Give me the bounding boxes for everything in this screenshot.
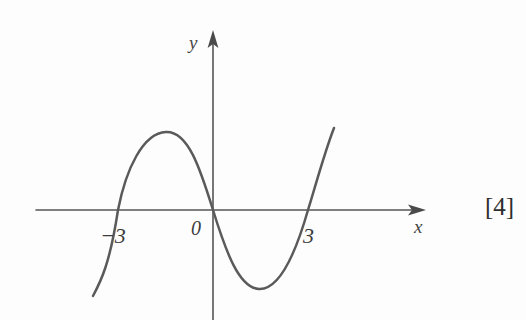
marks-allocation-badge: [4]	[485, 194, 514, 219]
x-axis-label: x	[413, 216, 423, 237]
cubic-graph-figure: y x 0 −3 3	[0, 0, 526, 320]
origin-label: 0	[191, 217, 201, 239]
x-tick-label-3: 3	[302, 223, 314, 248]
y-axis-label: y	[187, 32, 198, 53]
x-tick-label-minus-3: −3	[100, 223, 126, 248]
figure-container: y x 0 −3 3 [4]	[0, 0, 526, 320]
